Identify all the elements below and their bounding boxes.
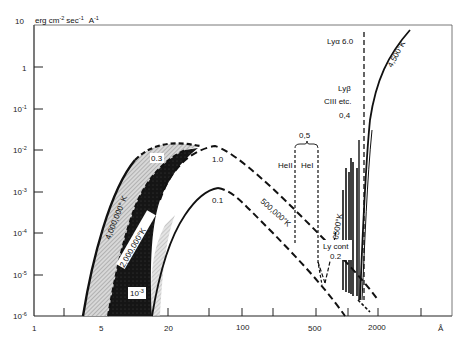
svg-text:1: 1 <box>22 64 27 73</box>
svg-text:1.0: 1.0 <box>212 155 224 164</box>
svg-text:10-1: 10-1 <box>13 104 27 114</box>
svg-text:20: 20 <box>164 324 173 333</box>
x-axis-unit: Å <box>438 324 444 333</box>
svg-text:4,500°K: 4,500°K <box>386 39 408 69</box>
y-axis-labels: 10 1 10-1 10-2 10-3 10-4 10-5 10-6 <box>13 17 27 321</box>
svg-text:CIII etc.: CIII etc. <box>324 97 352 106</box>
svg-text:1: 1 <box>32 324 37 333</box>
he-lines <box>295 150 322 285</box>
svg-text:HeII: HeII <box>278 161 293 170</box>
svg-text:0,5: 0,5 <box>299 131 311 140</box>
svg-text:5: 5 <box>99 324 104 333</box>
emission-lines <box>343 140 359 300</box>
x-axis-labels: 1 5 20 100 500 2000 Å <box>32 323 444 333</box>
y-axis-unit-label: erg cm-2sec-1A-1 <box>35 15 99 25</box>
svg-text:HeI: HeI <box>301 161 313 170</box>
svg-text:10: 10 <box>15 17 24 26</box>
svg-text:0.1: 0.1 <box>212 196 224 205</box>
y-axis-ticks <box>34 67 43 275</box>
svg-text:Ly cont: Ly cont <box>323 242 349 251</box>
svg-text:500: 500 <box>308 324 322 333</box>
svg-text:10-3: 10-3 <box>13 187 27 197</box>
svg-text:10-4: 10-4 <box>13 228 27 238</box>
svg-text:10-6: 10-6 <box>13 311 27 321</box>
svg-text:0,4: 0,4 <box>339 111 351 120</box>
svg-text:Lyβ: Lyβ <box>338 84 351 93</box>
svg-text:2000: 2000 <box>368 323 386 332</box>
he-brace <box>295 141 318 148</box>
svg-text:0.2: 0.2 <box>330 252 342 261</box>
svg-text:Lyα 6.0: Lyα 6.0 <box>327 37 354 46</box>
svg-text:100: 100 <box>236 323 250 332</box>
curve-4500K <box>360 30 410 300</box>
spectrum-chart: 10 1 10-1 10-2 10-3 10-4 10-5 10-6 erg c… <box>0 0 465 346</box>
svg-text:10-2: 10-2 <box>13 145 27 155</box>
svg-text:10-5: 10-5 <box>13 270 27 280</box>
svg-text:0.3: 0.3 <box>151 154 163 163</box>
